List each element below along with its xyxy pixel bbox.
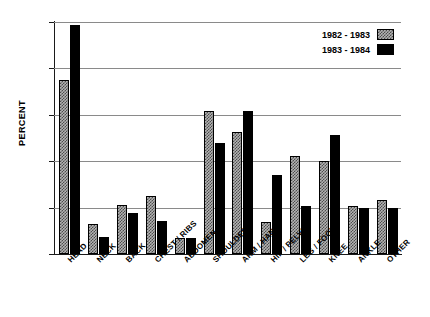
bar-chart-figure: PERCENT 0510152025 HEADNECKBACKCHEST / R…: [0, 0, 430, 317]
bar-group: [59, 22, 80, 254]
legend-item: 1983 - 1984: [254, 42, 394, 57]
bar-group: [117, 22, 138, 254]
bar-group: [88, 22, 109, 254]
bar: [88, 224, 98, 254]
y-tick-mark: [49, 68, 54, 69]
legend-item: 1982 - 1983: [254, 27, 394, 42]
bar: [70, 25, 80, 254]
y-tick-mark: [49, 115, 54, 116]
bar-group: [204, 22, 225, 254]
legend-label: 1983 - 1984: [322, 45, 370, 55]
legend: 1982 - 1983 1983 - 1984: [250, 24, 398, 60]
y-tick-mark: [49, 161, 54, 162]
bar: [117, 205, 127, 254]
y-tick-mark: [49, 208, 54, 209]
bar-group: [146, 22, 167, 254]
legend-swatch-1983-1984: [377, 44, 394, 55]
bar: [146, 196, 156, 254]
bar: [272, 175, 282, 254]
bar: [215, 143, 225, 254]
bar: [59, 80, 69, 254]
y-tick-mark: [49, 22, 54, 23]
y-tick-mark: [49, 254, 54, 255]
y-axis-label: PERCENT: [17, 83, 27, 163]
legend-swatch-1982-1983: [377, 29, 394, 40]
legend-label: 1982 - 1983: [322, 30, 370, 40]
bar: [348, 206, 358, 254]
